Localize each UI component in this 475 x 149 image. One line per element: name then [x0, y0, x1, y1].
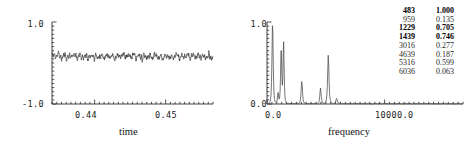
- time-x-axis-tick-label-1: 0.44: [75, 110, 97, 120]
- time-x-axis-tick-label-2: 0.45: [155, 110, 177, 120]
- time-y-axis-top-tick-label: 1.0: [6, 19, 44, 29]
- time-domain-plot-panel: 1.0 -1.0 0.44 0.45 time: [0, 0, 235, 149]
- peak-frequency-table: 4831.0009590.13512290.70514390.74630160.…: [389, 7, 454, 77]
- peak-frequency-value: 6036: [389, 68, 415, 77]
- frequency-y-axis-bottom-tick-label: 0.0: [233, 99, 267, 109]
- time-x-axis-title: time: [119, 126, 138, 137]
- frequency-y-axis-top-tick-label: 1.0: [233, 19, 267, 29]
- peak-amplitude-value: 0.063: [415, 68, 454, 77]
- frequency-x-axis-title: frequency: [328, 126, 370, 137]
- peak-table-row: 60360.063: [389, 68, 454, 77]
- peak-table-body: 4831.0009590.13512290.70514390.74630160.…: [389, 7, 454, 77]
- frequency-x-axis-tick-label-1: 0.0: [265, 110, 282, 120]
- time-y-axis-bottom-tick-label: -1.0: [6, 99, 44, 109]
- frequency-x-axis-tick-label-2: 10000.0: [375, 110, 414, 120]
